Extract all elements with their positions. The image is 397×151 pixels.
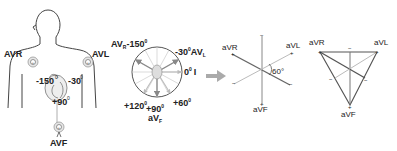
svg-text:−: − bbox=[348, 45, 352, 51]
avr-label: AVR bbox=[4, 49, 23, 59]
hexaxial-circle: AVR-1500 -300AVL 00I +1200 +900 +600 aVF bbox=[111, 38, 206, 124]
svg-text:0: 0 bbox=[80, 74, 83, 80]
body-outline-left bbox=[8, 10, 48, 108]
avr-angle: -150 bbox=[36, 76, 54, 86]
svg-text:−: − bbox=[260, 32, 264, 38]
axes-avl-label: aVL bbox=[286, 41, 301, 50]
svg-text:+: + bbox=[318, 49, 322, 55]
heart-icon bbox=[152, 65, 162, 79]
svg-text:−: − bbox=[289, 81, 293, 87]
circle-avf-label: aVF bbox=[148, 113, 162, 124]
svg-text:+: + bbox=[348, 104, 352, 110]
electrode-avr: + bbox=[28, 57, 38, 67]
triangle-avr-label: aVR bbox=[309, 38, 325, 47]
avf-angle: +90 bbox=[52, 97, 67, 107]
augmented-limb-leads-diagram: + + + AVR AVL AVF -150 0 -30 0 +90 0 bbox=[0, 0, 397, 151]
triangle-avl-label: aVL bbox=[374, 38, 389, 47]
triangle-avf-label: aVF bbox=[341, 110, 356, 119]
lead-axes: 60° aVR aVL aVF + + + − − − bbox=[222, 32, 301, 114]
svg-text:−: − bbox=[364, 77, 368, 83]
circle-lead-i-label: 00I bbox=[184, 66, 196, 77]
svg-text:+: + bbox=[375, 49, 379, 55]
circle-120-label: +1200 bbox=[124, 100, 147, 111]
svg-text:+: + bbox=[231, 51, 235, 57]
svg-text:0: 0 bbox=[55, 74, 58, 80]
svg-text:0: 0 bbox=[67, 95, 70, 101]
svg-text:+: + bbox=[290, 50, 294, 56]
svg-text:+: + bbox=[260, 101, 264, 107]
circle-avl-label: -300AVL bbox=[175, 46, 206, 58]
einthoven-triangle: aVR aVL aVF + + + − − − bbox=[309, 38, 389, 119]
circle-60-label: +600 bbox=[173, 97, 191, 108]
electrode-avf: + bbox=[54, 122, 64, 137]
avl-label: AVL bbox=[92, 49, 110, 59]
svg-text:−: − bbox=[232, 80, 236, 86]
circle-avr-label: AVR-1500 bbox=[111, 38, 147, 50]
angle-label: 60° bbox=[272, 67, 284, 76]
body-figure: + + + AVR AVL AVF -150 0 -30 0 +90 0 bbox=[4, 10, 110, 148]
axes-avr-label: aVR bbox=[222, 43, 238, 52]
svg-text:−: − bbox=[329, 76, 333, 82]
avf-label: AVF bbox=[50, 138, 68, 148]
transition-arrow-icon bbox=[206, 70, 226, 82]
